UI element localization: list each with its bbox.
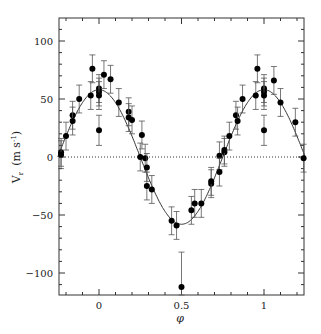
marker-dot	[179, 284, 185, 290]
data-point	[216, 158, 222, 186]
marker-dot	[144, 164, 150, 170]
y-label-subscript: r	[17, 171, 25, 175]
marker-dot	[174, 222, 180, 228]
y-axis-label: Vr(m s-1)	[10, 131, 25, 184]
marker-dot	[192, 200, 198, 206]
data-point	[101, 61, 107, 89]
data-point	[70, 107, 76, 135]
x-tick-label: 0.5	[174, 300, 190, 311]
data-point	[139, 121, 145, 149]
y-tick-label: 100	[34, 36, 53, 47]
marker-dot	[129, 117, 135, 123]
marker-dot	[96, 127, 102, 133]
data-point	[253, 82, 259, 110]
marker-dot	[116, 99, 122, 105]
data-point	[96, 115, 102, 145]
y-tick-label: −100	[26, 268, 53, 279]
data-point	[174, 212, 180, 240]
marker-dot	[226, 133, 232, 139]
marker-dot	[292, 119, 298, 125]
radial-velocity-chart: 00.51−100−50050100 φ Vr(m s-1)	[0, 0, 321, 334]
data-point	[233, 101, 239, 129]
marker-dot	[144, 183, 150, 189]
marker-dot	[198, 200, 204, 206]
marker-dot	[139, 132, 145, 138]
marker-dot	[208, 178, 214, 184]
marker-dot	[96, 93, 102, 99]
data-point	[144, 172, 150, 200]
svg-text:Vr(m s-1): Vr(m s-1)	[10, 131, 25, 184]
x-tick-label: 0	[96, 300, 102, 311]
data-point	[292, 108, 298, 136]
marker-dot	[108, 76, 114, 82]
y-tick-label: 50	[40, 94, 53, 105]
y-label-units: (m s	[10, 142, 23, 166]
marker-dot	[149, 186, 155, 192]
data-point	[271, 67, 277, 95]
marker-dot	[233, 112, 239, 118]
marker-dot	[271, 77, 277, 83]
data-point	[198, 189, 204, 217]
marker-dot	[261, 127, 267, 133]
marker-dot	[261, 93, 267, 99]
marker-dot	[63, 133, 69, 139]
marker-dot	[278, 99, 284, 105]
marker-dot	[70, 118, 76, 124]
data-point	[169, 207, 175, 235]
data-point	[179, 252, 185, 295]
marker-dot	[88, 93, 94, 99]
marker-dot	[188, 207, 194, 213]
data-point	[261, 115, 267, 145]
data-point	[88, 82, 94, 110]
data-point	[96, 82, 102, 110]
marker-dot	[253, 93, 259, 99]
data-point	[76, 85, 82, 113]
data-point	[261, 82, 267, 110]
data-point	[137, 143, 143, 171]
marker-dot	[58, 152, 64, 158]
marker-dot	[301, 155, 307, 161]
data-point	[188, 196, 194, 224]
sinusoid-fit-curve	[58, 90, 305, 225]
y-tick-label: 0	[47, 152, 53, 163]
y-tick-label: −50	[32, 210, 53, 221]
y-label-close: )	[10, 131, 23, 135]
data-point	[63, 122, 69, 150]
marker-dot	[142, 155, 148, 161]
marker-dot	[89, 66, 95, 72]
data-point	[278, 89, 284, 117]
x-tick-label: 1	[261, 300, 267, 311]
data-point	[235, 107, 241, 135]
data-point	[108, 65, 114, 93]
marker-dot	[101, 72, 107, 78]
marker-dot	[137, 154, 143, 160]
marker-dot	[216, 169, 222, 175]
marker-dot	[76, 96, 82, 102]
marker-dot	[235, 118, 241, 124]
data-point	[254, 55, 260, 83]
data-point	[89, 55, 95, 83]
marker-dot	[254, 66, 260, 72]
marker-dot	[169, 218, 175, 224]
y-label-exponent: -1	[10, 135, 18, 142]
data-point	[240, 85, 246, 113]
x-axis-label: φ	[176, 312, 184, 325]
marker-dot	[240, 96, 246, 102]
